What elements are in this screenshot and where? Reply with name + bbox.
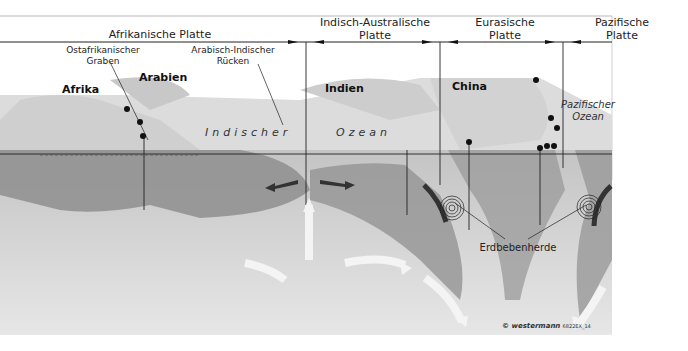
region-indian-ocean-2: Ozean [336, 126, 391, 139]
region-arabien: Arabien [139, 71, 187, 84]
label-arabian-indian-ridge: Arabisch-Indischer Rücken [178, 45, 288, 67]
region-indien: Indien [325, 82, 364, 95]
region-china: China [452, 80, 487, 93]
plate-name-line1: Indisch-Australische [305, 16, 445, 29]
plate-name: Afrikanische Platte [109, 28, 211, 41]
region-afrika: Afrika [62, 83, 99, 96]
copyright-credit: © westermann 6822EX_14 [502, 322, 591, 330]
label-line1: Arabisch-Indischer [178, 45, 288, 56]
region-indian-ocean-1: Indischer [205, 126, 291, 139]
label-line1: Pazifischer [553, 99, 623, 111]
label-line2: Ozean [553, 111, 623, 123]
label-line1: Ostafrikanischer [48, 45, 158, 56]
plate-name-line2: Platte [572, 29, 672, 42]
label-line2: Rücken [178, 56, 288, 67]
label-east-african-rift: Ostafrikanischer Graben [48, 45, 158, 67]
plate-name-line1: Pazifische [572, 16, 672, 29]
label-earthquake-foci: Erdbebenherde [468, 242, 568, 253]
plate-name-line2: Platte [305, 29, 445, 42]
plate-label-pacific: Pazifische Platte [572, 16, 672, 42]
plate-label-eurasian: Eurasische Platte [450, 16, 560, 42]
plate-name-line1: Eurasische [450, 16, 560, 29]
region-pacific-ocean: Pazifischer Ozean [553, 99, 623, 123]
plate-label-indo-australian: Indisch-Australische Platte [305, 16, 445, 42]
plate-name-line2: Platte [450, 29, 560, 42]
label-line2: Graben [48, 56, 158, 67]
credit-code: 6822EX_14 [563, 323, 591, 329]
label-text: Erdbebenherde [480, 242, 557, 253]
credit-brand: © westermann [502, 322, 560, 330]
plate-label-african: Afrikanische Platte [80, 28, 240, 41]
